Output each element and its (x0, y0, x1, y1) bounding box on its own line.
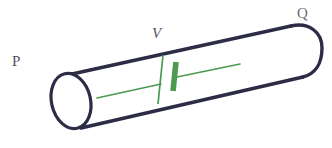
diagram-canvas: P Q V (0, 0, 332, 148)
label-voltage-v: V (152, 26, 161, 41)
label-terminal-q: Q (297, 6, 308, 21)
cell-plate-positive (173, 62, 176, 91)
label-terminal-p: P (12, 54, 20, 69)
discharge-tube-drawing (0, 0, 332, 148)
